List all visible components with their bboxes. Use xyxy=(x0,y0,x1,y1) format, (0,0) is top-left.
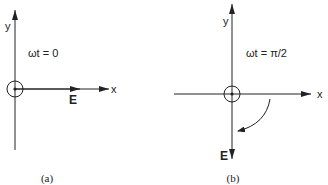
phase-label-b: ωt = π/2 xyxy=(246,47,287,59)
y-axis-label-a: y xyxy=(5,20,11,32)
x-axis-label-b: x xyxy=(317,88,323,100)
vector-label-a: E xyxy=(69,93,77,107)
x-axis-label-a: x xyxy=(111,83,117,95)
caption-a: (a) xyxy=(41,172,54,185)
caption-b: (b) xyxy=(227,172,240,185)
vector-label-b: E xyxy=(220,149,228,163)
y-axis-label-b: y xyxy=(223,15,229,27)
phase-label-a: ωt = 0 xyxy=(28,47,58,59)
label-layer: y x ωt = 0 E (a) y x ωt = π/2 E (b) xyxy=(0,0,328,185)
